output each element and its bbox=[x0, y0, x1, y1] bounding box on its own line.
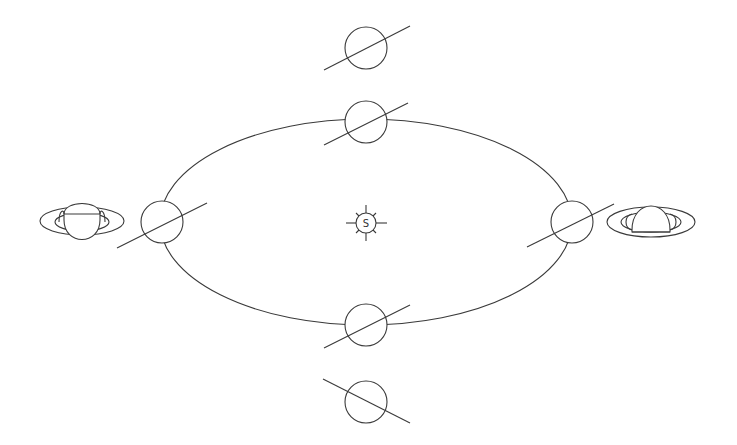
saturn-view-right bbox=[607, 206, 695, 237]
planet-top-orbit bbox=[324, 101, 408, 145]
planet-right-orbit bbox=[527, 201, 614, 247]
saturn-orbit-diagram: S bbox=[0, 0, 737, 445]
planet-top-outer bbox=[324, 26, 410, 70]
planet-bottom-orbit bbox=[324, 304, 410, 348]
sun-icon: S bbox=[346, 205, 387, 241]
planet-left-orbit bbox=[117, 201, 207, 248]
saturn-view-left bbox=[40, 204, 124, 240]
sun-label: S bbox=[363, 218, 369, 229]
planet-bottom-outer bbox=[323, 379, 410, 423]
